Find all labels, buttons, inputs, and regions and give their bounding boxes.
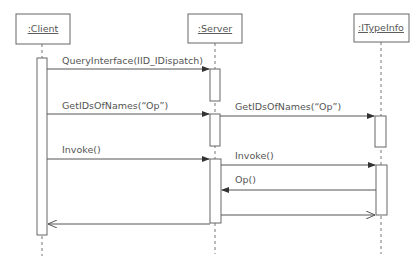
- server-activation-2: [210, 114, 220, 146]
- object-client: :Client: [16, 14, 70, 44]
- object-client-label: :Client: [28, 23, 59, 34]
- client-activation: [37, 58, 47, 235]
- message-getidsofnames-client-label: GetIDsOfNames(“Op”): [62, 100, 168, 111]
- message-getidsofnames-server: GetIDsOfNames(“Op”): [220, 101, 374, 116]
- itypeinfo-activation-1: [375, 116, 386, 147]
- object-itypeinfo: :ITypeInfo: [354, 14, 409, 42]
- object-server: :Server: [188, 14, 242, 43]
- object-itypeinfo-label: :ITypeInfo: [358, 22, 404, 33]
- message-getidsofnames-client: GetIDsOfNames(“Op”): [47, 100, 209, 114]
- message-queryinterface-label: QueryInterface(IID_IDispatch): [62, 55, 203, 66]
- sequence-diagram: :Client :Server :ITypeInfo QueryInterfac…: [0, 0, 418, 263]
- message-invoke-server-label: Invoke(): [235, 150, 274, 161]
- message-invoke-server: Invoke(): [221, 150, 375, 165]
- server-activation-1: [210, 69, 220, 101]
- message-op-label: Op(): [235, 174, 256, 185]
- itypeinfo-activation-2: [376, 165, 387, 215]
- message-queryinterface: QueryInterface(IID_IDispatch): [47, 55, 209, 69]
- message-invoke-client: Invoke(): [47, 144, 209, 159]
- object-server-label: :Server: [198, 23, 232, 34]
- message-invoke-client-label: Invoke(): [62, 144, 101, 155]
- message-getidsofnames-server-label: GetIDsOfNames(“Op”): [235, 101, 341, 112]
- server-activation-3: [210, 159, 221, 223]
- message-op: Op(): [222, 174, 376, 190]
